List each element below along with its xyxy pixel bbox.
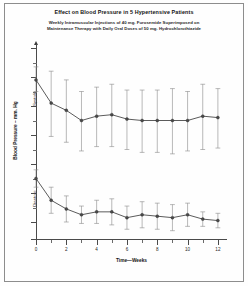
- chart-subtitle: Weekly Intramuscular Injections of 40 mg…: [14, 20, 234, 31]
- x-axis-title: Time—Weeks: [36, 258, 227, 263]
- y-tick-minor-90: [33, 208, 37, 209]
- x-tick-8: [157, 240, 158, 245]
- x-tick-10: [188, 240, 189, 245]
- x-tick-minor-11: [203, 240, 204, 243]
- y-tick-80: [31, 222, 37, 223]
- x-tick-12: [218, 240, 219, 245]
- figure-border: [4, 3, 244, 282]
- figure-plate: Effect on Blood Pressure in 5 Hypertensi…: [0, 0, 248, 286]
- y-tick-120: [31, 164, 37, 165]
- y-tick-160: [31, 106, 37, 107]
- x-tick-label-8: 8: [149, 247, 165, 252]
- x-axis-line: [36, 239, 227, 240]
- x-tick-minor-5: [112, 240, 113, 243]
- x-tick-label-4: 4: [89, 247, 105, 252]
- y-tick-180: [31, 77, 37, 78]
- x-tick-minor-9: [172, 240, 173, 243]
- y-tick-minor-130: [33, 150, 37, 151]
- y-tick-minor-190: [33, 63, 37, 64]
- x-tick-label-6: 6: [119, 247, 135, 252]
- series-label-systolic: Systolic: [32, 79, 37, 119]
- x-tick-minor-1: [51, 240, 52, 243]
- y-tick-140: [31, 135, 37, 136]
- x-tick-0: [36, 240, 37, 245]
- series-label-diastolic: Diastolic: [32, 179, 37, 219]
- title-block: Effect on Blood Pressure in 5 Hypertensi…: [14, 9, 234, 31]
- y-tick-200: [31, 48, 37, 49]
- x-tick-label-12: 12: [210, 247, 226, 252]
- y-tick-minor-110: [33, 179, 37, 180]
- x-tick-minor-7: [142, 240, 143, 243]
- chart-subtitle-line-2: Maintenance Therapy with Daily Oral Dose…: [14, 26, 234, 32]
- x-tick-6: [127, 240, 128, 245]
- x-tick-label-10: 10: [180, 247, 196, 252]
- y-tick-100: [31, 193, 37, 194]
- chart-title: Effect on Blood Pressure in 5 Hypertensi…: [14, 9, 234, 16]
- y-tick-minor-150: [33, 121, 37, 122]
- y-axis-title: Blood Pressure – mm. Hg: [13, 71, 18, 191]
- x-tick-4: [97, 240, 98, 245]
- x-tick-minor-3: [81, 240, 82, 243]
- y-tick-minor-170: [33, 92, 37, 93]
- x-tick-label-0: 0: [28, 247, 44, 252]
- x-tick-label-2: 2: [58, 247, 74, 252]
- x-tick-2: [66, 240, 67, 245]
